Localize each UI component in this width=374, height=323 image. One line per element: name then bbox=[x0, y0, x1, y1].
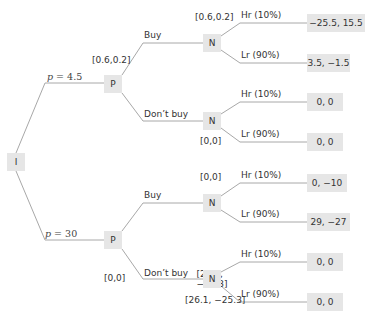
n1-value: [0.6,0.2] bbox=[195, 12, 234, 23]
price-value: = 30 bbox=[51, 228, 77, 239]
nature-node-2: N bbox=[203, 112, 221, 130]
payoff-n4-lr: 0, 0 bbox=[307, 293, 343, 311]
edge-n1-hr bbox=[221, 23, 307, 36]
outcome-label-n4-lr: Lr (90%) bbox=[241, 289, 280, 300]
nature-node-4: N bbox=[203, 270, 221, 288]
payoff-n4-hr: 0, 0 bbox=[307, 253, 343, 271]
price-label-1: p = 4.5 bbox=[47, 71, 82, 82]
root-node: I bbox=[7, 153, 25, 171]
payoff-n2-hr: 0, 0 bbox=[307, 93, 343, 111]
n3-value: [0,0] bbox=[200, 172, 221, 183]
payoff-n1-hr: −25.5, 15.5 bbox=[307, 14, 365, 32]
nature-node-3: N bbox=[203, 194, 221, 212]
edge-n4-hr bbox=[221, 262, 307, 272]
action-buy-2: Buy bbox=[144, 190, 161, 201]
edge-root-to-p1 bbox=[16, 83, 104, 153]
action-dontbuy-2: Don’t buy bbox=[144, 268, 188, 279]
edge-p2-buy bbox=[122, 203, 203, 231]
outcome-label-n4-hr: Hr (10%) bbox=[241, 249, 281, 260]
action-dontbuy-1: Don’t buy bbox=[144, 109, 188, 120]
payoff-n3-hr: 0, −10 bbox=[307, 174, 347, 192]
edge-n3-hr bbox=[221, 183, 307, 196]
payoff-n2-lr: 0, 0 bbox=[307, 133, 343, 151]
payoff-n1-lr: 3.5, −1.5 bbox=[307, 54, 350, 72]
action-buy-1: Buy bbox=[144, 30, 161, 41]
outcome-label-n1-hr: Hr (10%) bbox=[241, 10, 281, 21]
p1-value: [0.6,0.2] bbox=[92, 55, 131, 66]
nature-node-1: N bbox=[203, 34, 221, 52]
price-value: = 4.5 bbox=[53, 71, 82, 82]
outcome-label-n3-lr: Lr (90%) bbox=[241, 209, 280, 220]
outcome-label-n3-hr: Hr (10%) bbox=[241, 170, 281, 181]
edge-p1-buy bbox=[122, 43, 203, 75]
price-label-2: p = 30 bbox=[45, 228, 77, 239]
n2-value: [0,0] bbox=[200, 136, 221, 147]
edge-n2-hr bbox=[221, 102, 307, 114]
outcome-label-n2-lr: Lr (90%) bbox=[241, 129, 280, 140]
player-node-p2: P bbox=[104, 231, 122, 249]
player-node-p1: P bbox=[104, 75, 122, 93]
p2-value: [0,0] bbox=[104, 273, 125, 284]
outcome-label-n2-hr: Hr (10%) bbox=[241, 89, 281, 100]
n4-value: [26.1, −25.3] bbox=[185, 295, 245, 306]
payoff-n3-lr: 29, −27 bbox=[307, 213, 350, 231]
outcome-label-n1-lr: Lr (90%) bbox=[241, 50, 280, 61]
